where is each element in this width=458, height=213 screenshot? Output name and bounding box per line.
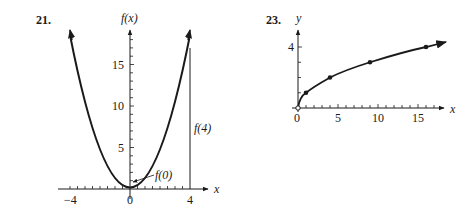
y-tick-15: 15 — [112, 58, 124, 72]
sqrt-curve — [298, 42, 446, 108]
x-tick-10: 10 — [372, 111, 384, 125]
point-4-2 — [328, 75, 333, 80]
x-tick-0: 0 — [127, 193, 133, 207]
point-9-3 — [368, 60, 373, 65]
x-tick-4: 4 — [187, 193, 193, 207]
figure-canvas: 21. f(x) x −4 0 — [0, 0, 458, 213]
x-axis-label: x — [449, 102, 456, 116]
problem-number-21: 21. — [36, 13, 51, 27]
x-ticks — [306, 104, 434, 108]
x-tick-neg4: −4 — [64, 193, 77, 207]
open-point-origin — [296, 106, 300, 110]
graph-23: 23. y x 0 5 10 15 4 — [266, 11, 456, 125]
point-16-4 — [424, 45, 429, 50]
point-1-1 — [304, 90, 309, 95]
f4-label: f(4) — [194, 121, 211, 135]
y-tick-5: 5 — [118, 141, 124, 155]
x-axis-label: x — [213, 182, 220, 196]
x-tick-5: 5 — [335, 111, 341, 125]
x-tick-0: 0 — [294, 111, 300, 125]
y-ticks — [130, 40, 134, 181]
problem-number-23: 23. — [266, 13, 281, 27]
y-axis-label: y — [295, 11, 302, 25]
y-ticks — [298, 47, 302, 93]
f0-label: f(0) — [155, 168, 172, 182]
y-tick-4: 4 — [288, 40, 294, 54]
x-tick-15: 15 — [412, 111, 424, 125]
y-axis-label: f(x) — [121, 11, 138, 25]
graph-21: 21. f(x) x −4 0 — [36, 11, 220, 207]
y-tick-10: 10 — [112, 99, 124, 113]
